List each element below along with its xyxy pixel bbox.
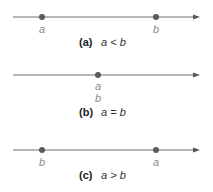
caption-relation-c: a > b (101, 169, 126, 181)
label-a: a (39, 23, 45, 35)
number-line-diagram: a b (a) a < b a b (b) a = b b a (c) a > … (0, 0, 213, 192)
point-a-equals-b (95, 72, 101, 78)
label-b: b (153, 23, 159, 35)
label-b: b (39, 156, 45, 168)
caption-tag-b: (b) (79, 106, 93, 118)
label-b: b (95, 92, 101, 104)
caption-tag-a: (a) (79, 36, 93, 48)
panel-a: a b (a) a < b (13, 14, 200, 48)
label-a: a (153, 156, 159, 168)
point-b (153, 14, 159, 20)
caption-relation-b: a = b (101, 106, 126, 118)
caption-relation-a: a < b (101, 36, 126, 48)
panel-c: b a (c) a > b (13, 147, 200, 181)
panel-b: a b (b) a = b (13, 72, 200, 118)
arrow-right-icon (193, 73, 200, 78)
arrow-right-icon (193, 15, 200, 20)
point-a (39, 14, 45, 20)
label-a: a (95, 80, 101, 92)
caption-tag-c: (c) (79, 169, 93, 181)
point-b (39, 147, 45, 153)
point-a (153, 147, 159, 153)
arrow-right-icon (193, 148, 200, 153)
